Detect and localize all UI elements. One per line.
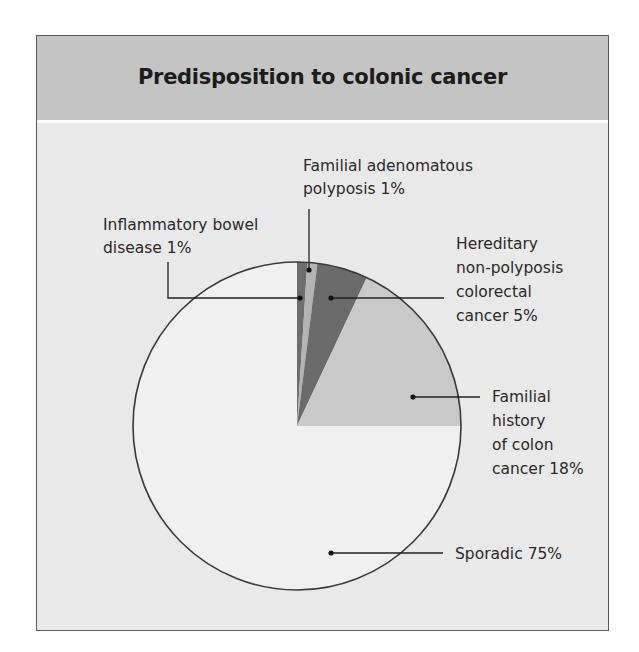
dot-hnpcc [328, 295, 333, 300]
label-familial-line3: of colon [492, 436, 554, 454]
label-familial-line2: history [492, 412, 545, 430]
label-ibd: Inflammatory bowel disease 1% [103, 216, 263, 257]
label-hnpcc-line3: colorectal [456, 283, 532, 301]
label-ibd-line2: disease 1% [103, 239, 191, 257]
label-fap-line1: Familial adenomatous [303, 157, 473, 175]
dot-sporadic [328, 550, 333, 555]
label-fap: Familial adenomatous polyposis 1% [303, 157, 478, 198]
dot-fap [306, 267, 311, 272]
label-hnpcc-line1: Hereditary [456, 235, 538, 253]
label-hnpcc: Hereditary non-polyposis colorectal canc… [456, 235, 568, 325]
dot-ibd [297, 295, 302, 300]
label-ibd-line1: Inflammatory bowel [103, 216, 258, 234]
label-sporadic-line1: Sporadic 75% [455, 545, 562, 563]
label-sporadic: Sporadic 75% [455, 545, 562, 563]
dot-familial [410, 394, 415, 399]
pie-chart: Inflammatory bowel disease 1% Familial a… [0, 0, 639, 652]
label-fap-line2: polyposis 1% [303, 180, 405, 198]
label-familial: Familial history of colon cancer 18% [492, 388, 584, 478]
label-hnpcc-line4: cancer 5% [456, 307, 538, 325]
label-hnpcc-line2: non-polyposis [456, 259, 563, 277]
label-familial-line4: cancer 18% [492, 460, 584, 478]
label-familial-line1: Familial [492, 388, 551, 406]
pie-slices [133, 262, 461, 590]
